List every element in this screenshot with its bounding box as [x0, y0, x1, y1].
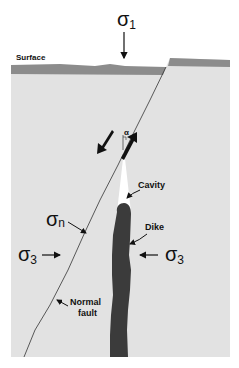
sigma1-label: σ1: [117, 8, 136, 32]
surface-layer-left: [11, 64, 166, 75]
dike-label: Dike: [145, 222, 164, 232]
surface-label: Surface: [16, 53, 46, 62]
fault-dike-diagram: σ1 Surface α Cavity Dike σn σ3 σ3 Normal…: [0, 0, 239, 368]
normal-fault-label-line2: fault: [78, 308, 97, 318]
normal-fault-label-line1: Normal: [70, 297, 101, 307]
alpha-label: α: [124, 128, 129, 137]
cavity-label: Cavity: [138, 180, 165, 190]
surface-layer-right: [168, 58, 230, 67]
